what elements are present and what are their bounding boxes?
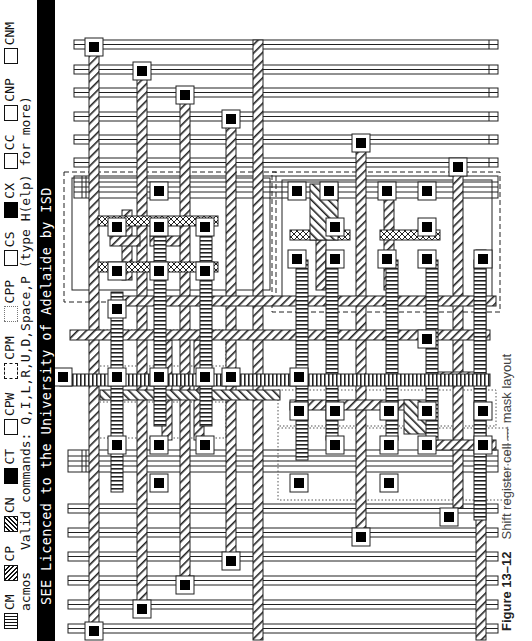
- cnp-swatch-icon: [4, 48, 18, 64]
- legend-cx: CX: [2, 183, 17, 199]
- cm-swatch-icon: [4, 613, 18, 629]
- cpw-open-swatch-icon: [4, 419, 18, 435]
- page: CM CP CN CT CPW CPM CPP CS CX CC CNP CNM…: [0, 0, 532, 641]
- figure-title: Shift register cell — mask layout: [499, 354, 514, 540]
- legend-cpw: CPW: [2, 393, 17, 416]
- legend-ct: CT: [2, 449, 17, 465]
- cpw-swatch-icon: [4, 363, 18, 379]
- valid-commands: Valid commands: Q,I,L,R,U,D,Space,P (typ…: [18, 96, 33, 550]
- cc-swatch-icon: [4, 105, 18, 121]
- legend-cp: CP: [2, 546, 17, 562]
- cpm-swatch-icon: [4, 306, 18, 322]
- legend-cnp: CNP: [2, 78, 17, 101]
- legend-cm: CM: [2, 594, 17, 610]
- legend-cpp: CPP: [2, 280, 17, 303]
- cn-swatch-icon: [4, 516, 18, 532]
- command-line: acmos Valid commands: Q,I,L,R,U,D,Space,…: [18, 96, 34, 611]
- layer-legend: CM CP CN CT CPW CPM CPP CS CX CC CNP CNM: [2, 22, 18, 635]
- acmos-header: CM CP CN CT CPW CPM CPP CS CX CC CNP CNM…: [0, 0, 66, 641]
- legend-cnm: CNM: [2, 22, 17, 45]
- cp-swatch-icon: [4, 565, 18, 581]
- mask-layout-drawing: [0, 0, 532, 641]
- licence-bar: SEE Licenced to the University of Adelai…: [37, 0, 55, 641]
- cpp-swatch-icon: [4, 250, 18, 266]
- cx-swatch-icon: [4, 153, 18, 169]
- cs-swatch-icon: [4, 202, 18, 218]
- legend-cn: CN: [2, 497, 17, 513]
- program-name: acmos: [18, 572, 33, 611]
- legend-cs: CS: [2, 231, 17, 247]
- figure-number: Figure 13–12: [499, 552, 514, 632]
- ct-swatch-icon: [4, 468, 18, 484]
- legend-cc: CC: [2, 135, 17, 151]
- legend-cpm: CPM: [2, 336, 17, 359]
- figure-caption: Figure 13–12Shift register cell — mask l…: [492, 331, 522, 641]
